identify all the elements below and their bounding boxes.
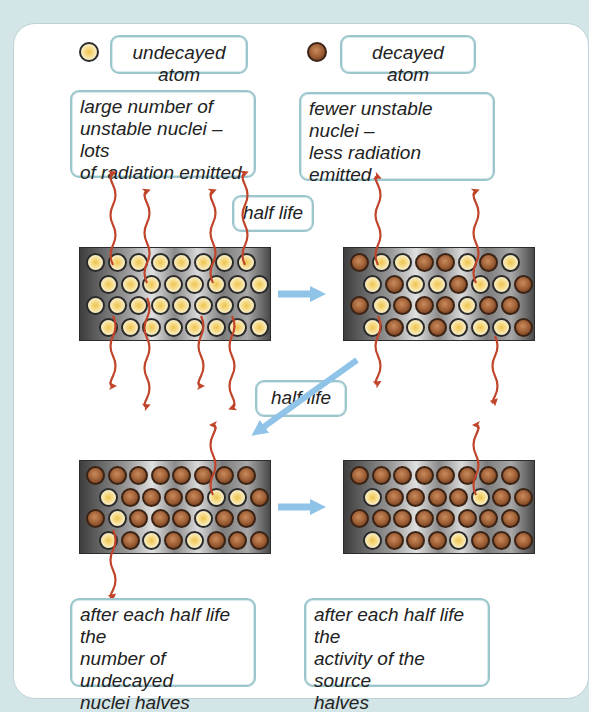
undecayed-atom-icon [129, 253, 148, 272]
undecayed-atom-icon [458, 296, 477, 315]
caption-line: after each half life the [314, 604, 480, 648]
decayed-atom-icon [458, 509, 477, 528]
undecayed-atom-icon [185, 318, 204, 337]
decayed-atom-icon [393, 509, 412, 528]
undecayed-atom-icon [172, 253, 191, 272]
decayed-atom-icon [172, 509, 191, 528]
atom-block-3 [79, 460, 271, 554]
decayed-atom-icon [237, 466, 256, 485]
undecayed-atom-icon [99, 318, 118, 337]
decayed-atom-icon [436, 509, 455, 528]
decayed-atom-icon [372, 509, 391, 528]
decayed-atom-icon [415, 253, 434, 272]
undecayed-atom-icon [363, 488, 382, 507]
undecayed-atom-icon [501, 253, 520, 272]
decayed-atom-icon [449, 488, 468, 507]
undecayed-atom-icon [99, 531, 118, 550]
undecayed-atom-icon [194, 253, 213, 272]
decayed-atom-icon [385, 318, 404, 337]
decayed-atom-icon [428, 531, 447, 550]
undecayed-atom-icon [121, 275, 140, 294]
caption-line: large number of [80, 96, 246, 118]
decayed-atom-icon [415, 466, 434, 485]
undecayed-atom-icon [492, 318, 511, 337]
undecayed-atom-icon [207, 318, 226, 337]
caption-line: halves [314, 692, 480, 712]
decayed-atom-icon [307, 42, 327, 62]
decayed-atom-icon [350, 466, 369, 485]
undecayed-atom-icon [207, 488, 226, 507]
undecayed-atom-icon [194, 296, 213, 315]
decayed-atom-icon [428, 488, 447, 507]
decayed-atom-icon [164, 488, 183, 507]
decayed-atom-icon [108, 466, 127, 485]
decayed-atom-icon [436, 253, 455, 272]
decayed-atom-icon [479, 509, 498, 528]
undecayed-atom-icon [363, 318, 382, 337]
undecayed-atom-icon [142, 275, 161, 294]
decayed-atom-icon [215, 466, 234, 485]
decayed-atom-icon [237, 509, 256, 528]
undecayed-atom-icon [471, 275, 490, 294]
undecayed-atom-icon [185, 275, 204, 294]
undecayed-atom-icon [237, 253, 256, 272]
decayed-atom-icon [436, 296, 455, 315]
decayed-atom-icon [415, 296, 434, 315]
decayed-atom-icon [436, 466, 455, 485]
decayed-atom-icon [514, 318, 533, 337]
undecayed-atom-icon [79, 42, 99, 62]
undecayed-atom-icon [471, 488, 490, 507]
decayed-atom-icon [385, 531, 404, 550]
decayed-atom-icon [172, 466, 191, 485]
caption-line: nuclei halves [80, 692, 246, 712]
undecayed-atom-icon [86, 296, 105, 315]
undecayed-atom-icon [215, 296, 234, 315]
undecayed-atom-icon [406, 318, 425, 337]
undecayed-atom-icon [207, 275, 226, 294]
decayed-atom-icon [406, 488, 425, 507]
undecayed-atom-icon [194, 509, 213, 528]
decayed-atom-icon [350, 296, 369, 315]
decayed-atom-icon [514, 488, 533, 507]
caption-line: fewer unstable nuclei – [309, 98, 485, 142]
decayed-atom-icon [479, 296, 498, 315]
caption-line: number of undecayed [80, 648, 246, 692]
undecayed-atom-icon [250, 275, 269, 294]
caption-bottom-right: after each half life the activity of the… [304, 598, 490, 687]
caption-line: less radiation emitted [309, 142, 485, 186]
undecayed-atom-icon [449, 318, 468, 337]
decayed-atom-icon [471, 531, 490, 550]
undecayed-atom-icon [86, 253, 105, 272]
undecayed-atom-icon [164, 318, 183, 337]
undecayed-atom-icon [172, 296, 191, 315]
undecayed-atom-icon [250, 318, 269, 337]
undecayed-atom-icon [228, 318, 247, 337]
undecayed-atom-icon [393, 253, 412, 272]
decayed-atom-icon [406, 531, 425, 550]
undecayed-atom-icon [228, 488, 247, 507]
caption-top-right: fewer unstable nuclei – less radiation e… [299, 92, 495, 181]
legend-undecayed-label: undecayed atom [110, 35, 248, 74]
decayed-atom-icon [228, 531, 247, 550]
decayed-atom-icon [185, 488, 204, 507]
decayed-atom-icon [207, 531, 226, 550]
undecayed-atom-icon [492, 275, 511, 294]
caption-top-left: large number of unstable nuclei – lots o… [70, 90, 256, 178]
undecayed-atom-icon [185, 531, 204, 550]
decayed-atom-icon [385, 275, 404, 294]
undecayed-atom-icon [458, 253, 477, 272]
caption-line: after each half life the [80, 604, 246, 648]
undecayed-atom-icon [471, 318, 490, 337]
half-life-text: half life [271, 387, 331, 408]
caption-bottom-left: after each half life the number of undec… [70, 598, 256, 687]
decayed-atom-icon [479, 253, 498, 272]
decayed-atom-icon [142, 488, 161, 507]
decayed-atom-icon [492, 488, 511, 507]
atom-block-1 [79, 247, 271, 341]
decayed-atom-icon [501, 509, 520, 528]
undecayed-atom-icon [449, 531, 468, 550]
decayed-atom-icon [393, 466, 412, 485]
atom-block-2 [343, 247, 535, 341]
decayed-atom-icon [372, 466, 391, 485]
undecayed-atom-icon [363, 531, 382, 550]
